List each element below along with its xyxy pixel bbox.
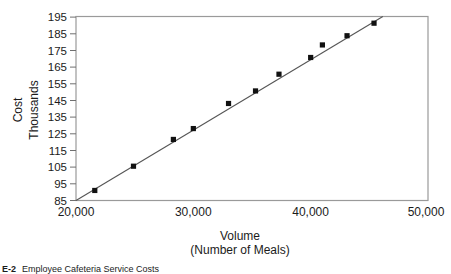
plot-frame — [76, 17, 428, 201]
data-point-marker — [92, 188, 97, 193]
y-axis-title-sub: Thousands — [27, 80, 41, 139]
data-point-marker — [131, 164, 136, 169]
y-tick-labels: 85 95 105 115 125 135 145 155 165 175 18… — [48, 11, 67, 206]
data-point-marker — [191, 126, 196, 131]
data-point-marker — [308, 55, 313, 60]
y-tick-label: 185 — [48, 28, 67, 40]
y-tick-label: 115 — [49, 145, 67, 157]
y-tick-label: 155 — [48, 78, 67, 90]
caption-label: E-2 — [2, 264, 16, 274]
y-axis-ticks — [70, 17, 76, 200]
data-point-marker — [371, 21, 376, 26]
data-point-marker — [276, 72, 281, 77]
chart-figure: 85 95 105 115 125 135 145 155 165 175 18… — [0, 0, 451, 274]
y-tick-label: 145 — [48, 95, 67, 107]
y-tick-label: 195 — [48, 11, 67, 23]
caption-body: Employee Cafeteria Service Costs — [22, 264, 160, 274]
y-axis-title: Cost Thousands — [11, 80, 41, 139]
x-tick-label: 20,000 — [58, 205, 95, 219]
x-axis-title-sub: (Number of Meals) — [190, 243, 289, 257]
data-point-marker — [344, 33, 349, 38]
y-tick-label: 175 — [48, 45, 67, 57]
y-tick-label: 135 — [48, 111, 67, 123]
y-axis-title-main: Cost — [11, 97, 25, 122]
y-tick-label: 125 — [48, 128, 67, 140]
x-tick-labels: 20,000 30,000 40,000 50,000 — [58, 205, 445, 219]
cost-volume-scatter-chart: 85 95 105 115 125 135 145 155 165 175 18… — [0, 0, 451, 274]
x-axis-title: Volume (Number of Meals) — [190, 229, 289, 257]
data-point-marker — [253, 88, 258, 93]
data-point-marker — [171, 137, 176, 142]
y-tick-label: 105 — [48, 161, 67, 173]
x-tick-label: 40,000 — [292, 205, 329, 219]
figure-caption: E-2 Employee Cafeteria Service Costs — [2, 264, 160, 274]
y-tick-label: 95 — [54, 178, 67, 190]
x-tick-label: 50,000 — [408, 205, 445, 219]
data-point-marker — [226, 101, 231, 106]
y-tick-label: 165 — [48, 61, 67, 73]
x-tick-label: 30,000 — [175, 205, 212, 219]
x-axis-title-main: Volume — [220, 229, 260, 243]
data-point-marker — [320, 42, 325, 47]
